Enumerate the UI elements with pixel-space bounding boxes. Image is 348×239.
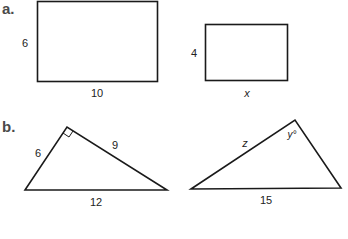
- similar-triangle-left-side-label: z: [241, 137, 248, 149]
- rectangle-small: 4 x: [191, 25, 288, 100]
- similar-triangle-base-label: 15: [260, 194, 272, 206]
- right-triangle-left-side-label: 6: [35, 147, 41, 159]
- right-triangle-shape: [25, 127, 167, 190]
- rectangle-small-shape: [206, 25, 288, 81]
- rectangle-large-width-label: 10: [91, 87, 103, 99]
- similar-triangle-angle-label: y°: [287, 129, 297, 140]
- rectangle-small-width-label: x: [243, 87, 250, 99]
- rectangle-large-height-label: 6: [22, 37, 28, 49]
- similar-triangle-shape: [191, 120, 341, 189]
- similar-triangle: z y° 15: [191, 120, 341, 206]
- rectangle-large: 6 10: [22, 2, 158, 100]
- right-triangle-base-label: 12: [90, 196, 102, 208]
- rectangle-large-shape: [38, 2, 158, 82]
- right-triangle: 6 9 12: [25, 127, 167, 208]
- rectangle-small-height-label: 4: [191, 47, 197, 59]
- right-triangle-right-side-label: 9: [112, 139, 118, 151]
- similar-figures-diagram: 6 10 4 x 6 9 12 z y° 15: [0, 0, 348, 239]
